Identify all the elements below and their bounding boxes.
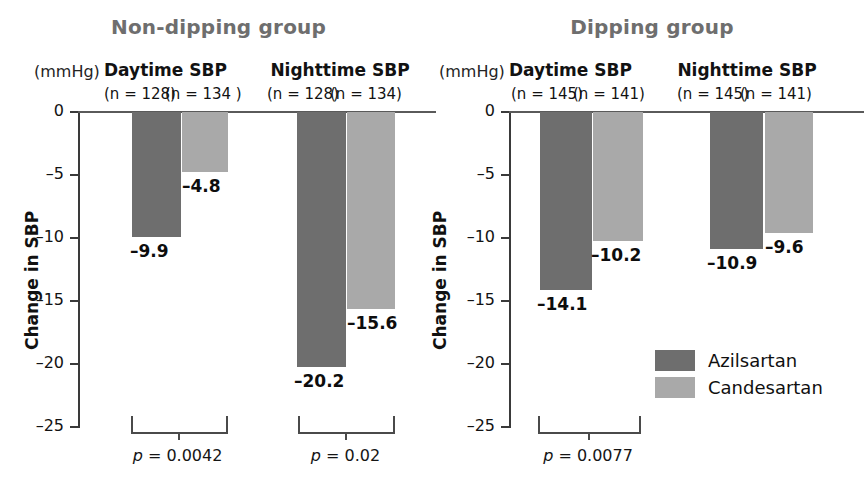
units-label-right: (mmHg)	[439, 62, 505, 81]
column-header-nighttime-left: Nighttime SBP	[270, 60, 410, 80]
bar-value-nighttime-candesartan-left: –15.6	[347, 313, 397, 333]
bar-daytime-candesartan-right	[593, 112, 643, 241]
y-tick-label-10-right: –10	[451, 227, 495, 246]
n-label-nighttime-azilsartan-right: (n = 145)	[677, 85, 735, 103]
y-tick-label-15-right: –15	[451, 290, 495, 309]
n-label-daytime-azilsartan-left: (n = 128)	[104, 85, 162, 103]
y-tick-25-right	[501, 426, 509, 428]
column-header-nighttime-right: Nighttime SBP	[677, 60, 817, 80]
legend-swatch-candesartan	[655, 377, 695, 398]
y-axis-title-right: Change in SBP	[430, 211, 450, 350]
bar-value-nighttime-candesartan-right: –9.6	[765, 237, 804, 257]
y-axis-line-right	[509, 112, 511, 428]
bar-value-nighttime-azilsartan-right: –10.9	[707, 253, 757, 273]
bar-nighttime-candesartan-left	[347, 112, 395, 309]
y-tick-label-5-left: –5	[20, 164, 64, 183]
bar-daytime-candesartan-left	[182, 112, 228, 172]
figure-root: Non-dipping group (mmHg) Daytime SBP Nig…	[0, 0, 867, 500]
legend-swatch-azilsartan	[655, 350, 695, 371]
n-text: (n = 128)	[267, 85, 339, 103]
p-value-nighttime-left: p = 0.02	[288, 446, 403, 465]
y-tick-label-10-left: –10	[20, 227, 64, 246]
n-text: (n = 134 )	[165, 85, 242, 103]
bar-daytime-azilsartan-right	[540, 112, 592, 290]
n-label-nighttime-candesartan-left: (n = 134)	[330, 85, 392, 103]
legend-item-candesartan[interactable]: Candesartan	[655, 377, 823, 398]
p-symbol: p	[543, 446, 553, 465]
legend-label-azilsartan: Azilsartan	[708, 350, 797, 371]
bar-value-daytime-candesartan-left: –4.8	[182, 176, 221, 196]
y-tick-label-0-right: 0	[451, 101, 495, 120]
y-tick-10-right	[501, 237, 509, 239]
y-tick-0-left	[70, 111, 78, 113]
p-bracket-stem-daytime-left	[178, 432, 180, 440]
panel-title-dipping: Dipping group	[437, 15, 867, 39]
y-tick-20-left	[70, 363, 78, 365]
n-text: (n = 141)	[573, 85, 645, 103]
y-tick-label-20-right: –20	[451, 353, 495, 372]
bar-value-daytime-azilsartan-right: –14.1	[537, 294, 587, 314]
n-label-nighttime-candesartan-right: (n = 141)	[740, 85, 798, 103]
n-text: (n = 134)	[330, 85, 402, 103]
y-tick-20-right	[501, 363, 509, 365]
n-label-daytime-azilsartan-right: (n = 145)	[511, 85, 569, 103]
bar-daytime-azilsartan-left	[132, 112, 181, 237]
p-bracket-stem-daytime-right	[588, 432, 590, 440]
legend-item-azilsartan[interactable]: Azilsartan	[655, 350, 797, 371]
y-tick-10-left	[70, 237, 78, 239]
panel-title-non-dipping: Non-dipping group	[0, 15, 437, 39]
p-value-daytime-right: p = 0.0077	[519, 446, 657, 465]
y-tick-label-0-left: 0	[20, 101, 64, 120]
bar-value-nighttime-azilsartan-left: –20.2	[294, 371, 344, 391]
bar-nighttime-azilsartan-right	[710, 112, 763, 249]
p-bracket-stem-nighttime-left	[345, 432, 347, 440]
y-tick-label-25-right: –25	[451, 416, 495, 435]
y-tick-label-20-left: –20	[20, 353, 64, 372]
y-tick-5-left	[70, 174, 78, 176]
p-symbol: p	[311, 446, 321, 465]
y-tick-5-right	[501, 174, 509, 176]
y-tick-15-left	[70, 300, 78, 302]
n-text: (n = 141)	[740, 85, 812, 103]
y-axis-line-left	[78, 112, 80, 428]
bar-nighttime-candesartan-right	[765, 112, 813, 233]
bar-nighttime-azilsartan-left	[297, 112, 346, 367]
legend-label-candesartan: Candesartan	[708, 377, 823, 398]
y-tick-15-right	[501, 300, 509, 302]
y-tick-label-25-left: –25	[20, 416, 64, 435]
bar-value-daytime-candesartan-right: –10.2	[591, 245, 641, 265]
panel-non-dipping: Non-dipping group (mmHg) Daytime SBP Nig…	[0, 0, 437, 500]
panel-dipping: Dipping group (mmHg) Daytime SBP Nightti…	[437, 0, 867, 500]
p-number: = 0.0042	[143, 446, 223, 465]
units-label-left: (mmHg)	[34, 62, 100, 81]
n-label-daytime-candesartan-left: (n = 134 )	[165, 85, 227, 103]
y-tick-0-right	[501, 111, 509, 113]
bar-value-daytime-azilsartan-left: –9.9	[130, 241, 169, 261]
y-tick-25-left	[70, 426, 78, 428]
p-number: = 0.02	[321, 446, 380, 465]
n-label-nighttime-azilsartan-left: (n = 128)	[267, 85, 325, 103]
n-text: (n = 145)	[677, 85, 749, 103]
p-value-daytime-left: p = 0.0042	[110, 446, 245, 465]
p-number: = 0.0077	[553, 446, 633, 465]
y-tick-label-15-left: –15	[20, 290, 64, 309]
p-symbol: p	[133, 446, 143, 465]
column-header-daytime-right: Daytime SBP	[509, 60, 629, 80]
column-header-daytime-left: Daytime SBP	[104, 60, 224, 80]
y-tick-label-5-right: –5	[451, 164, 495, 183]
n-label-daytime-candesartan-right: (n = 141)	[573, 85, 631, 103]
